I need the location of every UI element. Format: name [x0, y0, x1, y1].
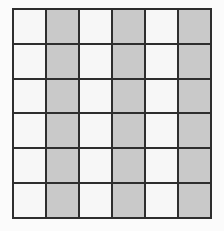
grid-cell-r4-c6 — [179, 114, 210, 147]
grid-cell-r6-c1 — [14, 184, 45, 217]
grid-cell-r1-c1 — [14, 10, 45, 43]
grid-cell-r3-c3 — [80, 80, 111, 113]
grid-cell-r6-c5 — [146, 184, 177, 217]
grid-cell-r4-c3 — [80, 114, 111, 147]
grid-cell-r2-c3 — [80, 45, 111, 78]
grid-cell-r3-c1 — [14, 80, 45, 113]
grid-cell-r2-c1 — [14, 45, 45, 78]
grid-cell-r1-c3 — [80, 10, 111, 43]
grid-cell-r1-c5 — [146, 10, 177, 43]
grid-cell-r3-c4 — [113, 80, 144, 113]
grid-cell-r6-c6 — [179, 184, 210, 217]
grid-cell-r2-c2 — [47, 45, 78, 78]
grid-cell-r2-c4 — [113, 45, 144, 78]
grid-cell-r5-c5 — [146, 149, 177, 182]
grid-cell-r1-c4 — [113, 10, 144, 43]
grid-cell-r6-c4 — [113, 184, 144, 217]
grid-diagram — [12, 8, 212, 219]
grid-cell-r5-c1 — [14, 149, 45, 182]
grid-cell-r4-c1 — [14, 114, 45, 147]
grid-cell-r6-c3 — [80, 184, 111, 217]
grid-cell-r3-c2 — [47, 80, 78, 113]
grid-cell-r1-c6 — [179, 10, 210, 43]
grid-cell-r2-c6 — [179, 45, 210, 78]
grid-cell-r1-c2 — [47, 10, 78, 43]
grid-cell-r2-c5 — [146, 45, 177, 78]
grid-cell-r6-c2 — [47, 184, 78, 217]
grid-cell-r3-c5 — [146, 80, 177, 113]
grid-cell-r5-c6 — [179, 149, 210, 182]
grid-cell-r4-c4 — [113, 114, 144, 147]
grid-cell-r4-c5 — [146, 114, 177, 147]
grid-cell-r4-c2 — [47, 114, 78, 147]
grid-cell-r3-c6 — [179, 80, 210, 113]
grid-cell-r5-c3 — [80, 149, 111, 182]
grid-cell-r5-c2 — [47, 149, 78, 182]
grid-cell-r5-c4 — [113, 149, 144, 182]
